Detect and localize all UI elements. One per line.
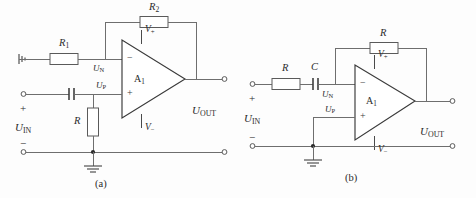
- circuit-b-group: [250, 43, 455, 167]
- label-supply-vplus-a: V+: [145, 25, 155, 35]
- input-plus-terminal-b: [250, 82, 255, 87]
- label-pin-noninverting-b: +: [360, 111, 366, 121]
- label-output-uout-b: UOUT: [420, 126, 444, 139]
- label-supply-vplus-b: V+: [378, 50, 388, 60]
- output-terminal-a: [222, 77, 227, 82]
- resistor-r1-body: [50, 54, 78, 65]
- circuit-figure: R1 R2 R UN UP A1 V+ V− − + + UIN − UOUT …: [0, 0, 476, 198]
- label-input-plus-b: +: [249, 93, 255, 104]
- resistor-r-shunt-body: [88, 108, 99, 136]
- caption-b: (b): [345, 172, 357, 183]
- label-resistor-r2: R2: [149, 2, 159, 13]
- label-input-minus-b: −: [249, 132, 255, 143]
- caption-a: (a): [95, 178, 107, 189]
- label-node-un-b: UN: [322, 90, 333, 100]
- label-pin-inverting-b: −: [360, 78, 366, 88]
- label-node-up-b: UP: [325, 105, 335, 115]
- label-input-uin-b: UIN: [244, 113, 260, 126]
- label-capacitor-c-b: C: [311, 62, 318, 73]
- circuit-a-group: [19, 17, 227, 173]
- input-minus-terminal-a: [21, 150, 26, 155]
- output-terminal-b: [450, 99, 455, 104]
- label-output-uout-a: UOUT: [192, 105, 216, 118]
- label-input-plus-a: +: [20, 103, 26, 114]
- label-resistor-r-feedback-b: R: [380, 28, 386, 39]
- label-input-uin-a: UIN: [15, 122, 31, 135]
- label-input-minus-a: −: [20, 138, 26, 149]
- input-plus-terminal-a: [21, 92, 26, 97]
- left-chassis-ground-icon: [19, 54, 25, 64]
- output-return-terminal-b: [450, 144, 455, 149]
- label-opamp-a1: A1: [134, 74, 145, 86]
- bottom-ground-icon-b: [304, 146, 322, 166]
- label-resistor-r1: R1: [59, 38, 69, 49]
- label-node-up-a: UP: [96, 81, 106, 91]
- label-resistor-r-shunt: R: [74, 116, 80, 127]
- label-opamp-b1: A1: [366, 96, 377, 108]
- schematic-canvas: [0, 0, 476, 198]
- label-pin-noninverting-a: +: [127, 88, 133, 98]
- label-resistor-r-input-b: R: [282, 63, 288, 74]
- label-supply-vminus-b: V−: [378, 145, 388, 155]
- label-supply-vminus-a: V−: [145, 123, 155, 133]
- label-pin-inverting-a: −: [127, 53, 133, 63]
- label-node-un-a: UN: [93, 64, 104, 74]
- bottom-ground-icon-a: [84, 152, 102, 172]
- resistor-r-input-body-b: [272, 79, 300, 90]
- input-minus-terminal-b: [250, 144, 255, 149]
- output-return-terminal-a: [222, 150, 227, 155]
